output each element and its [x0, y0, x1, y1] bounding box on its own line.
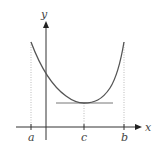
- function-curve: [31, 42, 124, 103]
- x-axis-label: x: [145, 121, 152, 134]
- diagram-canvas: y x a c b: [0, 0, 158, 152]
- tick-label-c: c: [81, 131, 87, 144]
- tick-label-b: b: [121, 131, 128, 144]
- x-axis-arrow-icon: [135, 124, 142, 130]
- y-axis-arrow-icon: [43, 21, 49, 28]
- tick-label-a: a: [28, 131, 35, 144]
- y-axis-label: y: [40, 8, 48, 21]
